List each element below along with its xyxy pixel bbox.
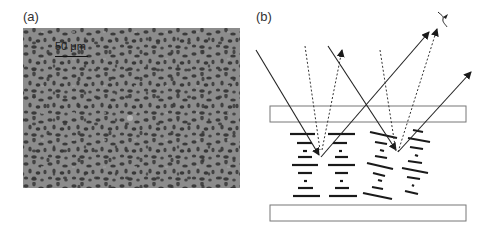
layer-stack-1 <box>290 134 320 196</box>
incident-ray-1 <box>256 50 319 155</box>
layer-stack-3 <box>363 132 397 199</box>
detector-mark-icon <box>438 12 447 27</box>
dotted-reflected-2 <box>398 29 437 152</box>
top-plate <box>270 106 466 122</box>
layer-stack-4 <box>402 130 430 194</box>
scale-bar-label: 50 μm <box>55 40 86 52</box>
reflection-diagram <box>250 0 494 233</box>
reflected-ray-2 <box>398 72 471 152</box>
scale-bar <box>55 56 88 57</box>
micrograph-image <box>23 28 240 188</box>
bottom-plate <box>270 205 466 221</box>
panel-a-label: (a) <box>23 9 39 24</box>
